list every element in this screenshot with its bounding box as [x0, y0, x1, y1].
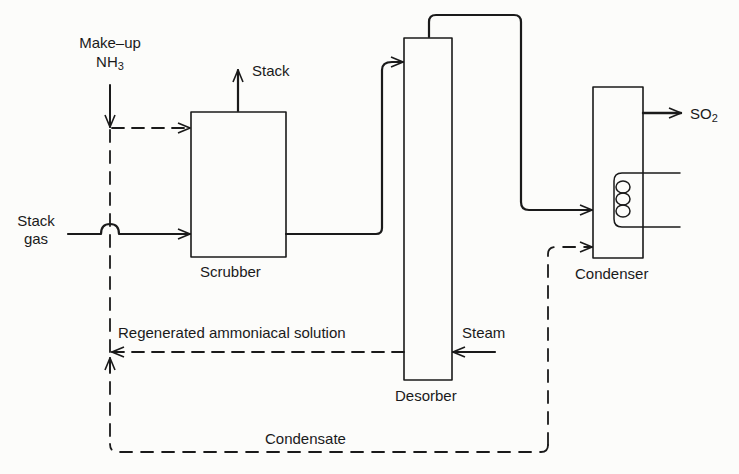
regenerated-solution-label: Regenerated ammoniacal solution — [118, 325, 346, 340]
stack-gas-line1: Stack — [14, 213, 58, 228]
so2-label: SO2 — [690, 106, 718, 124]
makeup-text: Make–up — [78, 35, 142, 50]
so2-subscript: 2 — [712, 112, 718, 124]
cooling-coil-icon — [614, 173, 680, 227]
stack-gas-label: Stack gas — [14, 213, 58, 246]
steam-label: Steam — [462, 325, 505, 340]
desorber-label: Desorber — [395, 388, 457, 403]
scrubber-to-desorber-line — [286, 62, 403, 234]
nh3-subscript: 3 — [118, 60, 124, 72]
scrubber-label: Scrubber — [200, 264, 261, 279]
makeup-label: Make–up NH3 — [78, 35, 142, 72]
desorber-to-condenser-line — [429, 15, 592, 210]
stack-gas-line — [68, 224, 190, 234]
process-flow-diagram: Make–up NH3 Stack Stack gas Scrubber Des… — [0, 0, 739, 474]
stack-gas-line2: gas — [14, 231, 58, 246]
nh-text: NH — [96, 53, 118, 70]
so2-text: SO — [690, 105, 712, 122]
stack-out-label: Stack — [252, 63, 290, 78]
desorber-box — [404, 38, 452, 380]
nh3-text: NH3 — [78, 54, 142, 72]
scrubber-box — [191, 112, 286, 257]
condensate-label: Condensate — [265, 431, 346, 446]
condenser-label: Condenser — [575, 266, 648, 281]
